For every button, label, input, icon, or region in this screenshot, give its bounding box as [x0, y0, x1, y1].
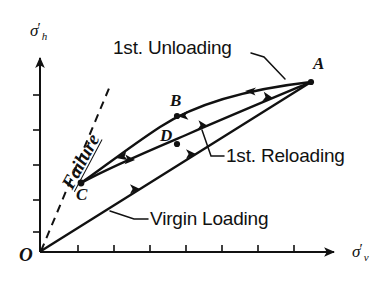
annotation-reloading: 1st. Reloading [226, 146, 345, 165]
annotation-virgin-loading: Virgin Loading [150, 209, 268, 228]
leader-lines [110, 53, 285, 219]
x-axis-subscript: v [364, 251, 369, 263]
y-axis-label: σ′h [30, 22, 47, 42]
annotation-unloading: 1st. Unloading [113, 38, 232, 57]
x-axis-prime: ′ [359, 241, 362, 257]
x-axis-ticks [78, 245, 294, 252]
x-axis-label: σ′v [352, 243, 369, 263]
point-marker-b [174, 113, 180, 119]
stress-path-figure: σ′h σ′v O A B C D 1st. Unloading 1st. Re… [0, 0, 392, 291]
point-marker-d [174, 141, 180, 147]
point-marker-a [308, 79, 314, 85]
y-axis-subscript: h [42, 30, 48, 42]
point-label-d: D [160, 127, 172, 144]
leader-virgin [110, 211, 148, 219]
point-label-a: A [313, 55, 324, 72]
y-axis-prime: ′ [37, 20, 40, 36]
leader-unloading [251, 53, 285, 79]
point-label-b: B [170, 92, 181, 109]
origin-label: O [19, 245, 33, 264]
y-axis-ticks [33, 95, 40, 232]
reloading-path [81, 82, 311, 183]
